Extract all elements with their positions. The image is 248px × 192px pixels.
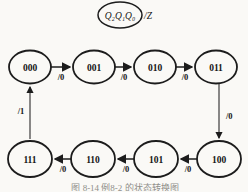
edge-label-001-010: /0 — [120, 72, 128, 82]
legend-state-variables: Q₂Q₁Q₀ — [105, 11, 136, 21]
state-diagram-figure: Q₂Q₁Q₀ /Z /0 /0 /0 /0 /0 /0 /0 /1 000 00 — [0, 0, 248, 191]
edge-label-110-111: /0 — [59, 164, 67, 174]
state-node-110: 110 — [71, 141, 115, 177]
state-node-101: 101 — [134, 141, 178, 177]
state-label-110: 110 — [86, 155, 100, 165]
state-node-010: 010 — [134, 51, 176, 84]
state-node-100: 100 — [197, 141, 241, 177]
figure-caption: 图 8-14 例8-2 的状态转换图 — [71, 182, 178, 192]
state-label-001: 001 — [87, 63, 102, 73]
legend-group: Q₂Q₁Q₀ /Z — [98, 2, 153, 28]
edge-label-101-110: /0 — [122, 164, 130, 174]
state-label-100: 100 — [212, 155, 227, 165]
state-label-000: 000 — [23, 63, 38, 73]
edge-label-000-001: /0 — [57, 72, 65, 82]
state-label-111: 111 — [23, 155, 36, 165]
edge-label-100-101: /0 — [184, 164, 192, 174]
state-node-111: 111 — [8, 141, 52, 177]
state-label-011: 011 — [209, 63, 223, 73]
state-node-000: 000 — [9, 51, 51, 84]
state-node-001: 001 — [73, 51, 115, 84]
state-node-011: 011 — [195, 51, 237, 84]
state-label-010: 010 — [148, 63, 163, 73]
edge-label-010-011: /0 — [181, 72, 189, 82]
edge-label-011-100: /0 — [225, 111, 233, 121]
legend-output-label: /Z — [143, 11, 153, 21]
edge-label-111-000: /1 — [17, 106, 25, 116]
state-label-101: 101 — [149, 155, 164, 165]
state-diagram-canvas: Q₂Q₁Q₀ /Z /0 /0 /0 /0 /0 /0 /0 /1 000 00 — [0, 0, 248, 191]
